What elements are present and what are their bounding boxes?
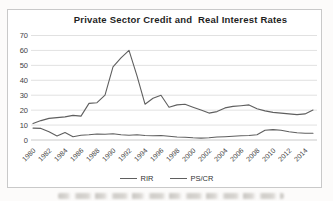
legend-item-rir: RIR xyxy=(120,174,154,183)
y-tick-label: 70 xyxy=(20,31,28,40)
chart-legend: RIR PS/CR xyxy=(0,174,333,183)
series-line-ps-cr xyxy=(33,50,313,123)
y-tick-label: 30 xyxy=(20,91,28,100)
x-tick-label: 2014 xyxy=(293,147,309,163)
blurred-caption-text xyxy=(58,193,284,199)
x-tick-label: 2010 xyxy=(261,147,277,163)
x-tick-label: 1986 xyxy=(69,147,85,163)
x-tick-label: 2004 xyxy=(213,147,229,163)
x-tick-label: 1994 xyxy=(133,147,149,163)
pscr-line-swatch-icon xyxy=(170,178,187,179)
x-tick-label: 1980 xyxy=(21,147,37,163)
x-tick-label: 1984 xyxy=(53,147,69,163)
x-tick-label: 1988 xyxy=(85,147,101,163)
x-tick-label: 2002 xyxy=(197,147,213,163)
line-chart: 0102030405060701980198219841986198819901… xyxy=(0,0,333,201)
x-tick-label: 1992 xyxy=(117,147,133,163)
x-tick-label: 2000 xyxy=(181,147,197,163)
y-tick-label: 60 xyxy=(20,46,28,55)
legend-item-pscr: PS/CR xyxy=(170,174,214,183)
y-tick-label: 0 xyxy=(24,136,28,145)
x-tick-label: 2008 xyxy=(245,147,261,163)
y-tick-label: 10 xyxy=(20,121,28,130)
x-tick-label: 1982 xyxy=(37,147,53,163)
x-tick-label: 1998 xyxy=(165,147,181,163)
chart-title: Private Sector Credit and Real Interest … xyxy=(36,14,325,25)
x-tick-label: 1990 xyxy=(101,147,117,163)
scanned-page: 0102030405060701980198219841986198819901… xyxy=(0,0,333,201)
y-tick-label: 50 xyxy=(20,61,28,70)
x-tick-label: 1996 xyxy=(149,147,165,163)
rir-line-swatch-icon xyxy=(120,178,137,179)
y-tick-label: 20 xyxy=(20,106,28,115)
x-tick-label: 2006 xyxy=(229,147,245,163)
legend-label-pscr: PS/CR xyxy=(191,174,214,183)
series-line-rir xyxy=(33,128,313,138)
legend-label-rir: RIR xyxy=(141,174,154,183)
y-tick-label: 40 xyxy=(20,76,28,85)
x-tick-label: 2012 xyxy=(277,147,293,163)
